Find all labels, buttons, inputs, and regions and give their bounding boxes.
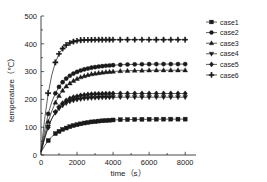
marker-case2 (57, 85, 61, 89)
marker-case2 (125, 62, 129, 66)
marker-case1 (53, 132, 57, 136)
marker-case6-v (55, 60, 56, 65)
marker-case3 (140, 68, 145, 72)
legend-item-case3[interactable]: case3 (206, 40, 239, 47)
marker-case2 (140, 62, 144, 66)
marker-case2 (183, 62, 187, 66)
marker-case1 (118, 118, 122, 122)
y-tick-label: 300 (24, 67, 37, 76)
marker-case3 (53, 100, 58, 104)
legend-label-case3: case3 (220, 40, 239, 47)
marker-case1 (147, 117, 151, 121)
marker-case6-v (73, 39, 74, 44)
marker-case1 (169, 117, 173, 121)
y-tick-label: 0 (33, 151, 37, 160)
marker-case1 (68, 125, 72, 129)
marker-case3 (147, 68, 152, 72)
marker-case1 (107, 118, 111, 122)
marker-case6 (154, 37, 159, 42)
marker-case2 (118, 63, 122, 67)
marker-case1 (61, 127, 65, 131)
marker-case6-v (163, 37, 164, 42)
x-tick-label: 2000 (69, 158, 86, 167)
marker-case2 (111, 63, 115, 67)
legend-marker-case3 (209, 41, 214, 45)
marker-case6 (125, 37, 130, 42)
legend-marker-case1 (210, 20, 214, 24)
marker-case3 (161, 68, 166, 72)
marker-case1 (75, 123, 79, 127)
marker-case1 (79, 122, 83, 126)
marker-case6 (53, 60, 58, 65)
y-tick-label: 200 (24, 95, 37, 104)
marker-case6-v (170, 37, 171, 42)
marker-case2 (161, 62, 165, 66)
chart-legend: case1case2case3case4case5case6 (206, 19, 239, 79)
marker-case2 (64, 76, 68, 80)
marker-case2 (46, 112, 50, 116)
x-tick-label: 0 (39, 158, 43, 167)
legend-item-case5[interactable]: case5 (206, 61, 239, 68)
axes (41, 16, 196, 155)
marker-case1 (97, 119, 101, 123)
marker-case6-v (48, 91, 49, 96)
marker-case6 (118, 37, 123, 42)
legend-label-case4: case4 (220, 50, 239, 57)
marker-case1 (93, 120, 97, 124)
x-axis-ticks: 02000400060008000 (39, 152, 194, 167)
marker-case2 (133, 62, 137, 66)
marker-case6-v (156, 37, 157, 42)
marker-case3 (132, 68, 137, 72)
marker-case6-v (112, 37, 113, 42)
marker-case1 (162, 117, 166, 121)
marker-case6-v (102, 37, 103, 42)
marker-case6-v (177, 37, 178, 42)
marker-case1 (133, 117, 137, 121)
legend-marker-case6 (209, 73, 214, 78)
legend-item-case6[interactable]: case6 (206, 72, 239, 79)
x-axis-label: time（s） (110, 169, 145, 178)
marker-case6-v (120, 37, 121, 42)
curve-case1 (41, 119, 185, 152)
marker-case1 (86, 120, 90, 124)
legend-item-case2[interactable]: case2 (206, 29, 239, 36)
series-case1 (41, 117, 187, 152)
marker-case3 (176, 68, 181, 72)
marker-case2 (154, 62, 158, 66)
data-series (41, 37, 188, 152)
marker-case6-v (149, 37, 150, 42)
marker-case2 (61, 80, 65, 84)
marker-case6 (183, 37, 188, 42)
marker-case1 (104, 119, 108, 123)
marker-case6-v (109, 37, 110, 42)
marker-case6 (139, 37, 144, 42)
legend-label-case2: case2 (220, 29, 239, 36)
marker-case1 (183, 117, 187, 121)
legend-marker-case4 (209, 52, 214, 56)
legend-marker-case2 (210, 31, 214, 35)
marker-case6-v (69, 40, 70, 45)
marker-case6-v (98, 37, 99, 42)
marker-case6-v (58, 51, 59, 56)
marker-case6-v (87, 37, 88, 42)
x-tick-label: 8000 (177, 158, 194, 167)
marker-case6 (110, 37, 115, 42)
marker-case1 (46, 139, 50, 143)
axis-spines (41, 16, 196, 155)
marker-case6-v (80, 38, 81, 43)
legend-item-case4[interactable]: case4 (206, 50, 239, 57)
legend-item-case1[interactable]: case1 (206, 19, 239, 26)
marker-case6-v (84, 37, 85, 42)
marker-case1 (111, 118, 115, 122)
marker-case6 (132, 37, 137, 42)
marker-case1 (140, 117, 144, 121)
marker-case1 (82, 121, 86, 125)
marker-case2 (147, 62, 151, 66)
legend-marker-case6-v (211, 73, 212, 78)
marker-case6-v (94, 37, 95, 42)
marker-case6-v (91, 37, 92, 42)
legend-label-case6: case6 (220, 72, 239, 79)
marker-case1 (100, 119, 104, 123)
marker-case6-v (76, 38, 77, 43)
marker-case6 (46, 91, 51, 96)
